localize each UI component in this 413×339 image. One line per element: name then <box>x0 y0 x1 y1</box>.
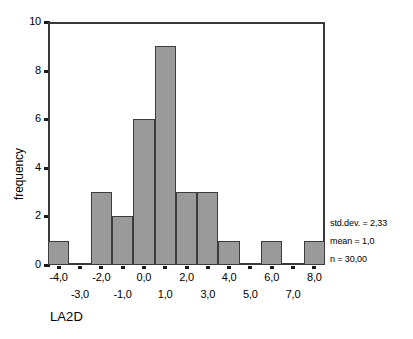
x-axis-tick-label: -3,0 <box>60 289 100 300</box>
histogram-bar <box>133 119 154 265</box>
x-axis-tick <box>142 266 146 269</box>
x-axis-tick <box>206 266 210 269</box>
x-axis-tick <box>163 266 167 269</box>
x-axis-tick-label: 6,0 <box>252 272 292 283</box>
y-axis-tick-label: 10 <box>1 16 41 27</box>
x-axis-tick-label: 4,0 <box>209 272 249 283</box>
histogram-bar <box>91 192 112 265</box>
x-axis-tick <box>248 266 252 269</box>
y-axis-tick-label: 8 <box>1 65 41 76</box>
x-axis-tick <box>185 266 189 269</box>
histogram-bar <box>261 241 282 265</box>
histogram-bar <box>112 216 133 265</box>
x-axis-tick-label: 2,0 <box>167 272 207 283</box>
y-axis-tick-label: 4 <box>1 162 41 173</box>
x-axis-tick <box>99 266 103 269</box>
x-axis-tick <box>121 266 125 269</box>
y-axis-tick-label: 2 <box>1 210 41 221</box>
histogram-bar <box>218 241 239 265</box>
x-axis-tick <box>227 266 231 269</box>
histogram-bar <box>197 192 218 265</box>
x-axis-tick-label: -1,0 <box>103 289 143 300</box>
stats-annotation-block: std.dev. = 2,33 mean = 1,0 n = 30,00 <box>330 219 413 273</box>
plot-area <box>48 22 325 265</box>
x-axis-tick <box>270 266 274 269</box>
x-axis-tick-label: -4,0 <box>39 272 79 283</box>
x-axis-title: LA2D <box>50 310 83 323</box>
x-axis-tick-label: -2,0 <box>81 272 121 283</box>
x-axis-tick-label: 8,0 <box>294 272 334 283</box>
x-axis-tick <box>312 266 316 269</box>
histogram-bar <box>155 46 176 265</box>
x-axis-tick-label: 7,0 <box>273 289 313 300</box>
x-axis-tick-label: 3,0 <box>188 289 228 300</box>
histogram-bar <box>48 241 69 265</box>
x-axis-tick-label: 0,0 <box>124 272 164 283</box>
y-axis-tick-label: 6 <box>1 113 41 124</box>
y-axis-title: frequency <box>13 124 25 224</box>
y-axis-tick-label: 0 <box>1 259 41 270</box>
x-axis-tick <box>57 266 61 269</box>
std-dev-label: std.dev. = 2,33 <box>330 219 413 228</box>
x-axis-tick <box>291 266 295 269</box>
sample-size-label: n = 30,00 <box>330 255 413 264</box>
x-axis-tick-label: 5,0 <box>230 289 270 300</box>
histogram-bar <box>304 241 325 265</box>
histogram-chart: frequency 0246810 -4,0-2,00,02,04,06,08,… <box>0 0 413 339</box>
x-axis-tick-label: 1,0 <box>145 289 185 300</box>
x-axis-tick <box>78 266 82 269</box>
mean-label: mean = 1,0 <box>330 237 413 246</box>
histogram-bar <box>176 192 197 265</box>
